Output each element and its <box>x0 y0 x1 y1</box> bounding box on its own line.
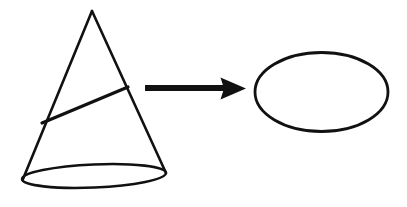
diagram-canvas <box>0 0 407 207</box>
arrow-shaft <box>145 85 224 91</box>
canvas-background <box>0 0 407 207</box>
cone-cross-section-figure <box>0 0 407 207</box>
